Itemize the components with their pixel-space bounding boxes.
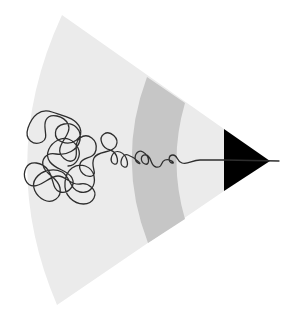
pencil-body: [27, 15, 224, 305]
pencil-scribble-illustration: [0, 0, 291, 316]
